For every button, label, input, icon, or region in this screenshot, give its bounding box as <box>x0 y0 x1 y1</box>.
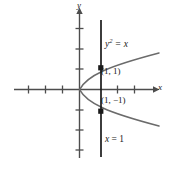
upper-intersection-label: (1, 1) <box>101 67 121 76</box>
line-equation-rest: = 1 <box>109 134 124 144</box>
x-axis-label: x <box>158 83 162 92</box>
intersection-marker-lower <box>98 109 103 114</box>
y-axis-label: y <box>77 1 81 10</box>
parabola-graph-figure: y x y2 = x (1, 1) (1, −1) x = 1 <box>0 0 169 170</box>
graph-plot-area <box>0 0 169 170</box>
lower-intersection-label: (1, −1) <box>101 96 126 105</box>
curve-equation-label: y2 = x <box>105 38 128 50</box>
curve-equation-rest: = x <box>112 39 127 49</box>
line-equation-label: x = 1 <box>105 135 124 145</box>
